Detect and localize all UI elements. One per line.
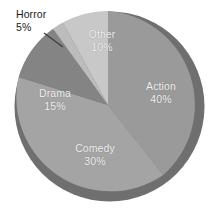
pie-chart: Action 40% Comedy 30% Drama 15% Horror 5… bbox=[0, 0, 217, 212]
pie-chart-canvas bbox=[0, 0, 217, 212]
